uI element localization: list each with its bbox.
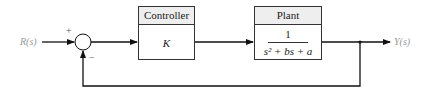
summing-junction [75,34,91,50]
plant-transfer-function: 1 s² + bs + a [264,28,313,58]
output-label: Y(s) [394,36,410,47]
fraction-bar [268,42,309,43]
controller-gain: K [139,25,194,61]
block-diagram-wires [0,0,428,97]
plant-denominator: s² + bs + a [264,44,313,58]
plant-title: Plant [255,7,321,25]
plant-numerator: 1 [264,28,313,41]
plus-sign: + [66,25,72,36]
controller-title: Controller [139,7,194,25]
plant-block: Plant 1 s² + bs + a [254,6,322,60]
input-label: R(s) [20,36,37,47]
minus-sign: − [89,52,95,63]
controller-block: Controller K [138,6,195,60]
